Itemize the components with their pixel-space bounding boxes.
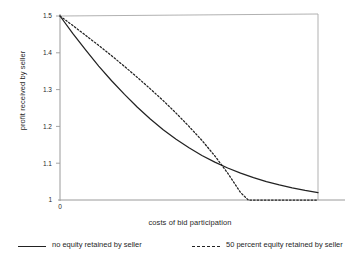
chart-legend: no equity retained by seller 50 percent … — [0, 240, 357, 256]
y-axis-tick-label-1-5: 1.5 — [26, 12, 52, 19]
legend-swatch-dashed — [192, 246, 220, 247]
legend-label-no-equity: no equity retained by seller — [52, 240, 142, 250]
legend-label-50-percent-equity: 50 percent equity retained by seller — [226, 240, 343, 250]
series-line-no-equity — [60, 16, 318, 193]
x-axis-tick-label-0: 0 — [53, 203, 67, 210]
y-axis-tick-label-1-2: 1.2 — [26, 123, 52, 130]
series-line-50-percent-equity — [60, 16, 318, 200]
legend-swatch-solid — [18, 246, 46, 247]
y-axis-tick-label-1-3: 1.3 — [26, 86, 52, 93]
y-axis-tick-label-1-4: 1.4 — [26, 49, 52, 56]
axis-line-top — [60, 14, 318, 16]
y-axis-tick-label-1: 1 — [26, 196, 52, 203]
y-axis-tick-label-1-1: 1.1 — [26, 160, 52, 167]
chart-figure: 1.5 1.4 1.3 1.2 1.1 1 0 profit received … — [0, 0, 357, 261]
y-axis-title: profit received by seller — [18, 21, 27, 161]
x-axis-title: costs of bid participation — [60, 218, 320, 227]
